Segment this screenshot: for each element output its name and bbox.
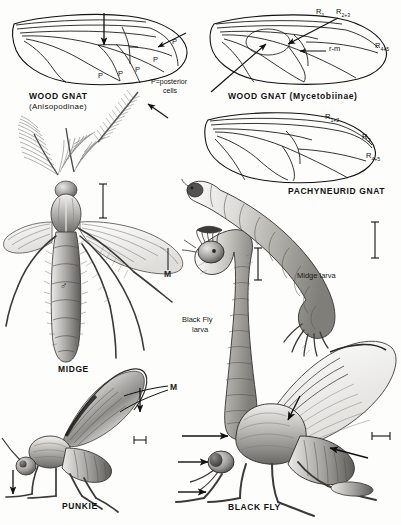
caption-midge-larva: Midge larva	[297, 272, 336, 280]
caption-black-fly: BLACK FLY	[228, 503, 281, 512]
caption-pachyneurid-gnat: PACHYNEURID GNAT	[288, 187, 385, 196]
plate-artwork	[0, 0, 401, 525]
p-cell-label-3: P	[135, 66, 140, 74]
figure-midge	[4, 90, 183, 362]
caption-punkie: PUNKIE	[62, 502, 98, 511]
pointer-arrow-r1-vein	[288, 18, 338, 44]
punkie-wing-near	[64, 371, 145, 446]
p-cell-label-2: P	[153, 56, 158, 64]
pointer-arrow-to-midge	[148, 104, 168, 118]
scale-bar-black-fly-larva	[254, 248, 262, 280]
p-cell-label-4: P	[118, 70, 123, 78]
caption-black-fly-larva-line2: larva	[192, 326, 208, 334]
vein-label-r1: R1	[316, 8, 324, 18]
vein-label-r3: R3	[362, 133, 370, 143]
vein-label-m-midge: M	[164, 270, 171, 279]
black-fly-eye	[210, 453, 223, 467]
sex-symbol-male: ♂	[60, 281, 68, 292]
p-cell-label-1: P	[172, 38, 177, 46]
midge-abdomen	[44, 232, 88, 362]
wing-diagram-mycetobiinae	[210, 15, 386, 85]
midge-wing-left	[4, 222, 53, 253]
vein-label-r4-5-pachy: R4+5	[366, 152, 380, 162]
vein-label-rm: r-m	[329, 45, 340, 53]
caption-wood-gnat-mycetobiinae: WOOD GNAT (Mycetobiinae)	[228, 92, 357, 101]
wing-diagram-pachyneurid	[205, 113, 375, 183]
vein-label-m-punkie: M	[170, 383, 177, 392]
posterior-cells-legend-line2: cells	[163, 87, 177, 94]
scale-bar-midge	[99, 184, 107, 218]
caption-black-fly-larva-line1: Black Fly	[182, 316, 212, 324]
caption-wood-gnat-anisopodinae-line2: (Anisopodinae)	[29, 103, 87, 111]
scale-bar-midge-larva	[371, 222, 379, 258]
posterior-cells-legend-line1: P=posterior	[151, 78, 187, 85]
figure-black-fly	[176, 341, 396, 516]
figure-punkie	[2, 369, 147, 512]
punkie-abdomen	[62, 448, 112, 482]
vein-label-r2-3: R2+3	[336, 8, 350, 18]
caption-wood-gnat-anisopodinae-line1: WOOD GNAT	[29, 92, 88, 101]
vein-label-r4-5: R4+5	[375, 42, 389, 52]
illustration-plate: P P P P P P=posterior cells WOOD GNAT (A…	[0, 0, 401, 525]
vein-label-r1-2: R1+2	[325, 113, 339, 123]
p-cell-label-5: P	[98, 72, 103, 80]
caption-midge: MIDGE	[58, 365, 89, 374]
scale-bar-black-fly	[372, 432, 390, 440]
pointer-arrow-discal-cell	[211, 44, 266, 92]
